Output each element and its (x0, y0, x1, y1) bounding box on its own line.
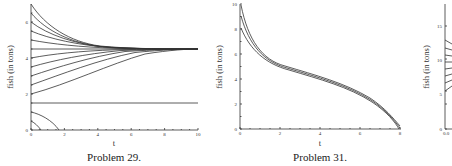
figure-canvas: 0 2 4 6 0 2 4 6 8 10 fish (in tons) t (0, 0, 452, 166)
x-tick-label: 4 (97, 132, 100, 137)
y-tick-label: 10 (232, 2, 238, 7)
x-axis-label: t (319, 138, 322, 148)
x-tick-label: 8 (399, 131, 402, 136)
solution-curves (445, 40, 452, 91)
x-tick-label: 2 (279, 131, 282, 136)
y-tick-label: 6 (26, 20, 29, 25)
y-tick-label: 0 (235, 127, 238, 132)
x-axis-label: t (113, 138, 116, 148)
x-tick-label: 6 (359, 131, 362, 136)
y-axis-label: fish (in tons) (5, 45, 15, 89)
caption-problem-31: Problem 31. (293, 151, 347, 163)
y-axis-label: fish (in tons) (214, 45, 224, 89)
y-tick-label: 2 (235, 102, 238, 107)
x-tick-label: 0 (239, 131, 242, 136)
x-tick-label: 6 (130, 132, 133, 137)
chart-partial-right: 0 5 10 15 0.0 fish (in tons) (421, 4, 452, 136)
y-tick-label: 15 (437, 24, 443, 29)
caption-problem-29: Problem 29. (87, 151, 141, 163)
y-tick-label: 10 (437, 58, 443, 63)
y-tick-label: 2 (26, 92, 29, 97)
y-tick-label: 4 (26, 56, 29, 61)
x-tick-label: 4 (319, 131, 322, 136)
y-tick-label: 8 (235, 27, 238, 32)
y-tick-label: 0 (26, 128, 29, 133)
x-tick-label: 10 (196, 132, 202, 137)
y-tick-label: 4 (235, 77, 238, 82)
x-tick-label: 0 (30, 132, 33, 137)
y-tick-label: 5 (440, 92, 443, 97)
y-tick-label: 6 (235, 52, 238, 57)
y-axis-label: fish (in tons) (421, 45, 431, 89)
x-ticks (31, 128, 198, 130)
chart-problem-29: 0 2 4 6 0 2 4 6 8 10 fish (in tons) t (5, 4, 201, 163)
x-tick-label: 8 (163, 132, 166, 137)
x-tick-label: 2 (63, 132, 66, 137)
x-tick-label: 0.0 (443, 131, 450, 136)
chart-problem-31: 0 2 4 6 8 10 0 2 4 6 8 fish (in tons) t … (214, 2, 402, 164)
solution-curves (31, 4, 198, 130)
solution-curves (241, 5, 400, 129)
